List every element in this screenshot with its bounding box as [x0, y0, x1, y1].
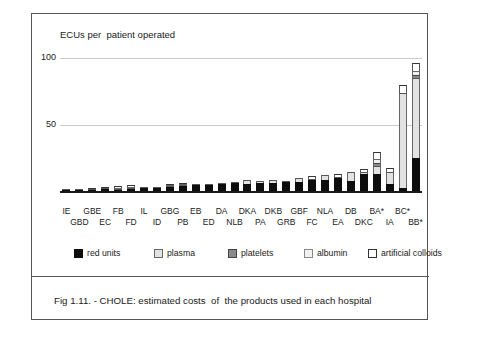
bar-segment-red-units [231, 183, 239, 191]
caption-container: Fig 1.11. - CHOLE: estimated costs of th… [32, 276, 429, 321]
x-label-IA: IA [386, 217, 394, 227]
bar-segment-red-units [75, 190, 83, 191]
bar-NLA [321, 175, 329, 191]
bar-segment-red-units [243, 184, 251, 191]
legend-label: artificial colloids [381, 248, 442, 258]
bar-DA [218, 183, 226, 191]
bar-segment-red-units [373, 174, 381, 191]
legend-item-plasma: plasma [154, 248, 195, 258]
x-label-IE: IE [62, 206, 70, 216]
bar-segment-red-units [347, 181, 355, 191]
legend-item-albumin: albumin [304, 248, 347, 258]
bar-PA [256, 181, 264, 191]
bar-segment-artificial-colloids [399, 85, 407, 93]
bar-segment-red-units [62, 190, 70, 191]
x-label-IL: IL [140, 206, 147, 216]
bar-segment-plasma [347, 172, 355, 181]
legend-label: plasma [167, 248, 195, 258]
legend-label: red units [87, 248, 120, 258]
x-label-DKA: DKA [239, 206, 256, 216]
legend-swatch-icon-platelets [228, 249, 237, 258]
bar-GRB [282, 181, 290, 191]
bar-segment-red-units [192, 185, 200, 191]
bar-segment-red-units [308, 180, 316, 191]
bar-EA [334, 174, 342, 191]
bar-IL [140, 187, 148, 191]
bar-segment-red-units [412, 158, 420, 191]
figure-frame: ECUs per patient operated 10050 IEGBDGBE… [31, 13, 428, 320]
x-label-BB*: BB* [408, 217, 423, 227]
x-label-EA: EA [332, 217, 343, 227]
bar-GBG [166, 184, 174, 191]
x-label-GBD: GBD [70, 217, 88, 227]
x-label-ID: ID [153, 217, 162, 227]
chart-legend: red unitsplasmaplateletsalbuminartificia… [32, 246, 429, 266]
x-label-PB: PB [177, 217, 188, 227]
bar-EC [101, 187, 109, 191]
bar-segment-red-units [386, 184, 394, 191]
bar-segment-plasma [373, 166, 381, 174]
bar-segment-red-units [205, 185, 213, 191]
bar-segment-artificial-colloids [412, 63, 420, 71]
bar-ID [153, 187, 161, 191]
bar-segment-red-units [295, 182, 303, 191]
bar-GBE [88, 188, 96, 191]
bar-segment-plasma [412, 78, 420, 158]
bar-DKB [269, 180, 277, 191]
x-label-DA: DA [216, 206, 228, 216]
x-label-GBE: GBE [83, 206, 101, 216]
bar-segment-red-units [282, 182, 290, 191]
x-label-NLA: NLA [317, 206, 334, 216]
bar-DKC [360, 169, 368, 191]
bar-IA [386, 168, 394, 191]
bar-segment-red-units [360, 174, 368, 191]
x-axis-labels: IEGBDGBEECFBFDILIDGBGPBEBEDDANLBDKAPADKB… [32, 206, 429, 240]
bar-segment-red-units [218, 184, 226, 191]
legend-swatch-icon-plasma [154, 249, 163, 258]
figure-caption: Fig 1.11. - CHOLE: estimated costs of th… [54, 295, 372, 306]
x-label-BC*: BC* [395, 206, 410, 216]
x-label-BA*: BA* [369, 206, 384, 216]
bar-ED [205, 184, 213, 191]
legend-label: platelets [241, 248, 273, 258]
x-label-PA: PA [255, 217, 266, 227]
bar-segment-artificial-colloids [373, 152, 381, 159]
x-label-FB: FB [113, 206, 124, 216]
bar-BA* [373, 152, 381, 191]
bar-segment-red-units [101, 189, 109, 191]
x-label-DKC: DKC [355, 217, 373, 227]
chart-plot-area: ECUs per patient operated 10050 IEGBDGBE… [32, 14, 429, 244]
bar-segment-red-units [269, 183, 277, 191]
bar-BC* [399, 85, 407, 191]
bar-FD [127, 185, 135, 191]
legend-label: albumin [317, 248, 347, 258]
legend-item-red_units: red units [74, 248, 120, 258]
bar-segment-red-units [179, 186, 187, 191]
x-label-FD: FD [125, 217, 136, 227]
bar-NLB [231, 182, 239, 191]
bar-segment-red-units [166, 187, 174, 191]
legend-swatch-icon-red_units [74, 249, 83, 258]
bar-FC [308, 176, 316, 191]
legend-swatch-icon-artificial_colloids [368, 249, 377, 258]
bar-segment-red-units [321, 180, 329, 191]
bar-EB [192, 184, 200, 191]
x-label-GRB: GRB [277, 217, 295, 227]
bar-segment-red-units [114, 190, 122, 191]
bar-DB [347, 172, 355, 191]
legend-item-artificial_colloids: artificial colloids [368, 248, 442, 258]
bar-segment-plasma [399, 93, 407, 189]
bar-segment-red-units [88, 190, 96, 191]
bar-segment-red-units [334, 178, 342, 191]
x-axis-line [60, 191, 422, 193]
bar-GBF [295, 178, 303, 191]
bar-segment-plasma [386, 172, 394, 185]
bar-segment-red-units [399, 188, 407, 191]
bar-segment-red-units [127, 189, 135, 191]
bar-GBD [75, 189, 83, 191]
x-label-ED: ED [203, 217, 215, 227]
x-label-EC: EC [99, 217, 111, 227]
bar-BB* [412, 63, 420, 191]
bar-DKA [243, 180, 251, 191]
bar-series-container [32, 14, 429, 191]
